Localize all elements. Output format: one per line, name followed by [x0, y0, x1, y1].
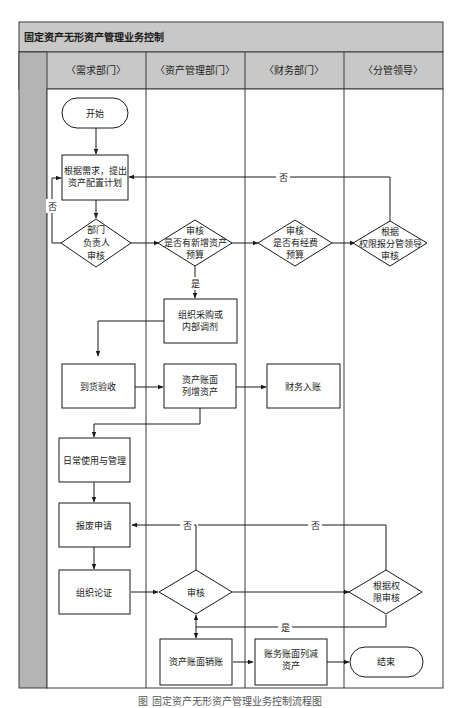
- edge-label-no-authority: 否: [311, 521, 320, 531]
- figure-caption: 图 固定资产无形资产管理业务控制流程图: [0, 693, 460, 708]
- edge-label-no-leader: 否: [279, 173, 288, 183]
- plan-label-2: 资产配置计划: [68, 177, 122, 188]
- fund-budget-label-1: 审核: [286, 225, 304, 236]
- finance-reduce-label-2: 资产: [282, 660, 300, 671]
- edge-label-no-review: 否: [183, 521, 192, 531]
- purchase-box: [164, 299, 237, 343]
- lane-header-asset-mgmt: 〈资产管理部门〉: [155, 64, 235, 76]
- authority-review-label-2: 限审核: [373, 592, 400, 603]
- asset-budget-label-2: 是否有新增资产: [164, 237, 227, 248]
- leader-review-label-2: 权限报分管领导: [359, 238, 422, 249]
- purchase-label-2: 内部调剂: [182, 321, 218, 332]
- finance-entry-label: 财务入账: [285, 381, 321, 392]
- plan-label-1: 根据需求，提出: [64, 165, 127, 176]
- fund-budget-label-3: 预算: [286, 249, 304, 260]
- diagram-title: 固定资产无形资产管理业务控制: [24, 31, 164, 43]
- writeoff-label: 资产账面销账: [169, 656, 223, 667]
- dept-review-label-3: 审核: [87, 250, 105, 261]
- asset-budget-label-3: 预算: [186, 249, 204, 260]
- ledger-add-label-1: 资产账面: [182, 374, 218, 385]
- start-label: 开始: [86, 108, 104, 119]
- leader-review-label-1: 根据: [381, 226, 399, 237]
- dept-review-label-2: 负责人: [83, 237, 110, 248]
- dept-review-label-1: 部门: [87, 224, 105, 235]
- ledger-add-label-2: 列增资产: [182, 386, 218, 397]
- asset-budget-label-1: 审核: [186, 225, 204, 236]
- acceptance-label: 到货验收: [80, 381, 116, 392]
- lane-header-demand: 〈需求部门〉: [66, 64, 126, 76]
- daily-use-label: 日常使用与管理: [63, 455, 126, 466]
- edge-label-no-dept: 否: [48, 202, 57, 212]
- authority-review-label-1: 根据权: [373, 580, 400, 591]
- ledger-add-box: [164, 364, 236, 408]
- review-label: 审核: [187, 587, 205, 598]
- edge-label-yes-authority: 是: [281, 623, 290, 633]
- fund-budget-label-2: 是否有经费: [273, 237, 318, 248]
- demonstration-label: 组织论证: [76, 587, 112, 598]
- lane-header-finance: 〈财务部门〉: [264, 64, 324, 76]
- edge-label-yes-budget: 是: [191, 279, 200, 289]
- purchase-label-1: 组织采购或: [178, 309, 223, 320]
- finance-reduce-label-1: 账务账面列减: [264, 648, 318, 659]
- leader-review-label-3: 审核: [381, 250, 399, 261]
- end-label: 结束: [377, 656, 395, 667]
- scrap-request-label: 报废申请: [76, 520, 112, 531]
- lane-header-leader: 〈分管领导〉: [363, 64, 423, 76]
